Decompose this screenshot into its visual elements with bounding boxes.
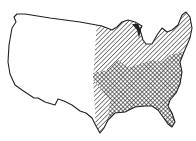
us-range-map [0, 0, 196, 141]
